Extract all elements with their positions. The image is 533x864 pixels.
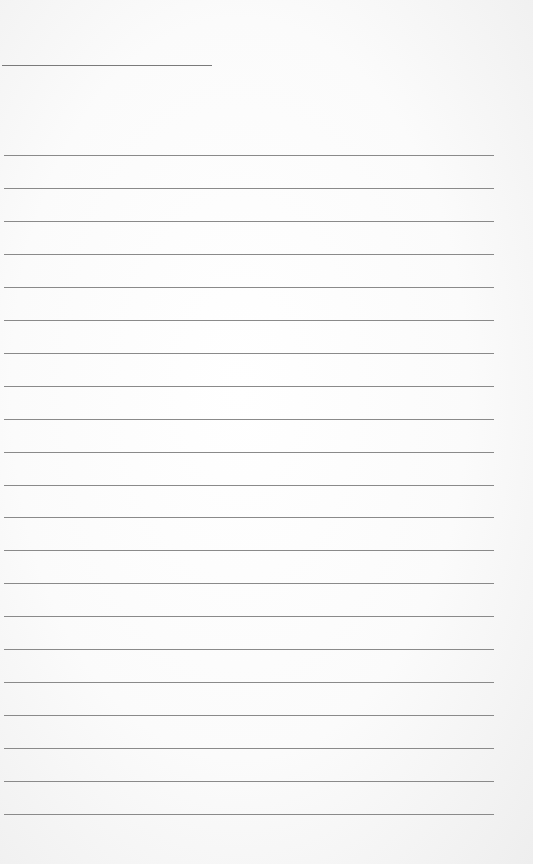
- ruled-line: [4, 254, 494, 255]
- ruled-line: [4, 386, 494, 387]
- ruled-line: [4, 353, 494, 354]
- ruled-line: [4, 550, 494, 551]
- ruled-line: [4, 320, 494, 321]
- ruled-line: [4, 485, 494, 486]
- ruled-line: [4, 583, 494, 584]
- ruled-line: [4, 682, 494, 683]
- lined-paper: [0, 0, 533, 864]
- ruled-line: [4, 814, 494, 815]
- ruled-line: [4, 616, 494, 617]
- ruled-line: [4, 748, 494, 749]
- ruled-line: [4, 221, 494, 222]
- ruled-line: [4, 155, 494, 156]
- ruled-line: [4, 781, 494, 782]
- ruled-line: [4, 517, 494, 518]
- ruled-line: [4, 419, 494, 420]
- ruled-line: [4, 188, 494, 189]
- ruled-line: [4, 452, 494, 453]
- header-name-line: [2, 65, 212, 66]
- ruled-line: [4, 287, 494, 288]
- ruled-line: [4, 649, 494, 650]
- ruled-line: [4, 715, 494, 716]
